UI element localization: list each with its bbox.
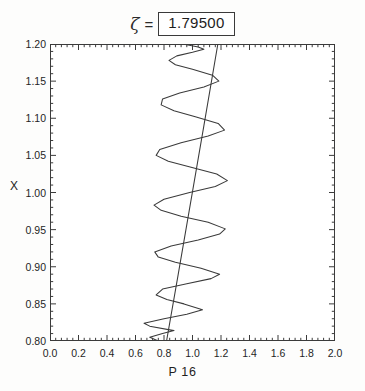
plot-canvas	[50, 44, 335, 341]
chart-title: ζ = 1.79500	[0, 12, 365, 36]
y-tick-label: 1.20	[12, 38, 46, 50]
equals-sign: =	[145, 17, 154, 32]
chart-page: ζ = 1.79500 0.800.850.900.951.001.051.10…	[0, 0, 365, 391]
x-tick-label: 2.0	[315, 347, 355, 359]
x-tick-labels: 0.00.20.40.60.81.01.21.41.61.82.0	[50, 347, 335, 363]
zeta-value-field[interactable]: 1.79500	[158, 12, 234, 36]
y-tick-label: 1.10	[12, 112, 46, 124]
zeta-symbol: ζ	[130, 16, 139, 33]
y-tick-label: 1.05	[12, 149, 46, 161]
y-tick-label: 0.80	[12, 335, 46, 347]
data-series	[144, 44, 227, 341]
y-tick-label: 0.90	[12, 261, 46, 273]
y-tick-label: 0.95	[12, 224, 46, 236]
reference-line-path	[167, 44, 218, 341]
oscillating-curve-path	[144, 44, 227, 341]
y-tick-label: 0.85	[12, 298, 46, 310]
x-axis-title: P 16	[0, 365, 365, 379]
y-axis-title: X	[10, 179, 18, 193]
y-tick-label: 1.15	[12, 75, 46, 87]
